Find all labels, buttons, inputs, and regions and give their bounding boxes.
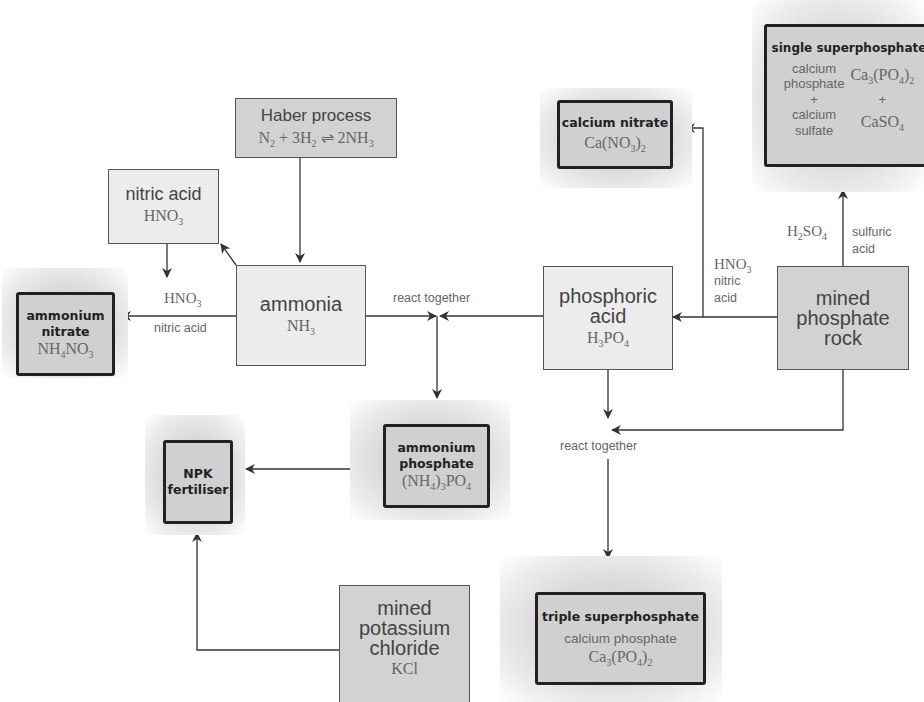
node-triple-superphosphate: triple superphosphate calcium phosphate …	[535, 592, 706, 685]
label-nitric-acid-calcium-nitrate: nitricacid	[714, 273, 740, 307]
node-nitric-acid: nitric acid HNO3	[108, 169, 219, 244]
node-ammonia: ammonia NH3	[236, 265, 366, 366]
plus-right: +	[850, 92, 914, 108]
component2-name: calciumsulfate	[784, 107, 845, 138]
calcium-nitrate-formula: Ca(NO3)2	[584, 134, 646, 154]
label-hno3-ammonium-nitrate: HNO3	[164, 290, 202, 309]
ammonium-nitrate-title-1: ammonium	[26, 308, 104, 324]
potassium-chloride-formula: KCl	[391, 660, 418, 678]
nitric-acid-formula: HNO3	[144, 207, 184, 227]
ammonium-nitrate-formula: NH4NO3	[37, 340, 93, 360]
nitric-acid-title: nitric acid	[125, 185, 201, 204]
triple-superphosphate-subtitle: calcium phosphate	[564, 631, 677, 646]
node-single-superphosphate: single superphosphate calciumphosphate C…	[764, 24, 924, 167]
haber-title: Haber process	[261, 107, 372, 125]
arrow-ammonia-to-nitric-acid	[221, 244, 236, 265]
label-sulfuric-acid: sulfuricacid	[852, 224, 892, 258]
ammonia-title: ammonia	[260, 294, 342, 314]
label-h2so4: H2SO4	[787, 223, 827, 242]
single-superphosphate-components: calciumphosphate Ca3(PO4)2 + + calciumsu…	[784, 61, 915, 139]
arrow-kcl-to-npk	[197, 533, 339, 650]
potassium-chloride-title-1: mined	[377, 598, 431, 618]
triple-superphosphate-formula: Ca3(PO4)2	[589, 648, 653, 668]
node-calcium-nitrate: calcium nitrate Ca(NO3)2	[557, 100, 673, 169]
arrow-rock-to-junction	[612, 370, 843, 430]
node-ammonium-phosphate: ammonium phosphate (NH4)3PO4	[383, 424, 490, 508]
ammonium-phosphate-title-1: ammonium	[397, 440, 475, 456]
triple-superphosphate-title: triple superphosphate	[542, 609, 699, 625]
ammonia-formula: NH3	[287, 317, 315, 337]
label-nitric-acid-ammonium-nitrate: nitric acid	[154, 320, 207, 337]
node-phosphate-rock: mined phosphate rock	[777, 266, 909, 370]
phosphoric-acid-formula: H3PO4	[587, 329, 629, 349]
phosphoric-acid-title-2: acid	[590, 306, 627, 326]
phosphate-rock-title-3: rock	[824, 328, 862, 348]
node-phosphoric-acid: phosphoric acid H3PO4	[543, 266, 673, 370]
label-react-together-bottom: react together	[560, 438, 637, 455]
phosphate-rock-title-1: mined	[816, 288, 870, 308]
component1-formula: Ca3(PO4)2	[850, 65, 914, 87]
ammonium-phosphate-title-2: phosphate	[399, 456, 474, 472]
single-superphosphate-title: single superphosphate	[772, 41, 924, 57]
node-haber-process: Haber process N2 + 3H2 ⇌ 2NH3	[235, 98, 397, 158]
component1-name: calciumphosphate	[784, 61, 845, 92]
component2-formula: CaSO4	[850, 112, 914, 134]
ammonium-phosphate-formula: (NH4)3PO4	[402, 472, 471, 492]
haber-equation: N2 + 3H2 ⇌ 2NH3	[258, 128, 373, 149]
potassium-chloride-title-2: potassium	[359, 618, 450, 638]
label-react-together-top: react together	[393, 290, 470, 307]
calcium-nitrate-title: calcium nitrate	[562, 115, 668, 131]
npk-title-2: fertiliser	[168, 482, 229, 498]
potassium-chloride-title-3: chloride	[369, 638, 439, 658]
phosphate-rock-title-2: phosphate	[796, 308, 889, 328]
phosphoric-acid-title-1: phosphoric	[559, 286, 657, 306]
npk-title-1: NPK	[183, 466, 212, 482]
plus-left: +	[784, 92, 845, 108]
node-potassium-chloride: mined potassium chloride KCl	[339, 585, 470, 702]
ammonium-nitrate-title-2: nitrate	[41, 324, 89, 340]
node-npk-fertiliser: NPK fertiliser	[163, 440, 233, 524]
node-ammonium-nitrate: ammonium nitrate NH4NO3	[16, 292, 115, 376]
